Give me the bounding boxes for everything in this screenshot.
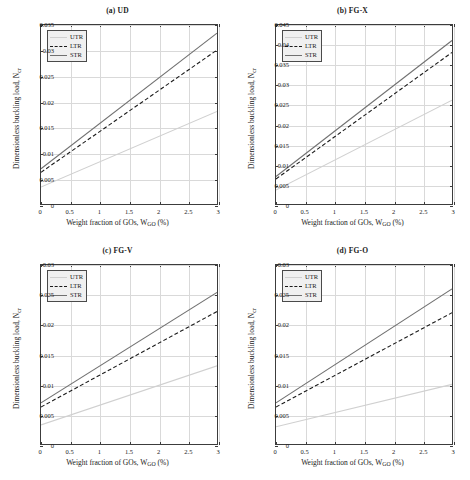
subplot-title-b: (b) FG-X bbox=[235, 6, 470, 15]
x-axis-tick-label: 3 bbox=[216, 208, 219, 215]
x-axis-tick-label: 2 bbox=[157, 208, 160, 215]
x-axis-tick-label: 1.5 bbox=[125, 208, 133, 215]
legend-item-utr[interactable]: UTR bbox=[50, 33, 83, 41]
legend-label: UTR bbox=[305, 33, 318, 41]
series-line-str bbox=[41, 292, 217, 402]
y-axis-tick bbox=[40, 446, 43, 447]
legend-label: LTR bbox=[70, 42, 82, 50]
y-axis-tick bbox=[275, 446, 278, 447]
x-axis-tick-label: 0.5 bbox=[301, 448, 309, 455]
y-axis-tick-label: 0.03 bbox=[43, 46, 54, 53]
y-axis-tick-label: 0.015 bbox=[274, 351, 289, 358]
x-axis-tick bbox=[454, 202, 455, 205]
y-axis-tick-label: 0 bbox=[286, 202, 289, 209]
x-axis-tick-label: 1.5 bbox=[360, 208, 368, 215]
subplot-panel-a: (a) UD UTRLTRSTR 00.511.522.5300.0050.01… bbox=[0, 0, 235, 240]
x-axis-tick-label: 3 bbox=[451, 208, 454, 215]
legend-item-ltr[interactable]: LTR bbox=[50, 282, 83, 290]
x-axis-tick-label: 1 bbox=[333, 448, 336, 455]
x-axis-tick-label: 0 bbox=[38, 448, 41, 455]
x-axis-tick-label: 2 bbox=[157, 448, 160, 455]
legend-item-utr[interactable]: UTR bbox=[50, 273, 83, 281]
x-axis-tick-label: 2.5 bbox=[184, 448, 192, 455]
legend-item-utr[interactable]: UTR bbox=[285, 273, 318, 281]
legend-line-swatch bbox=[285, 274, 302, 280]
series-line-utr bbox=[276, 384, 452, 426]
figure-canvas: (a) UD UTRLTRSTR 00.511.522.5300.0050.01… bbox=[0, 0, 470, 480]
x-axis-title: Weight fraction of GOs, WGO (%) bbox=[0, 218, 235, 227]
y-axis-tick-label: 0.015 bbox=[39, 351, 54, 358]
x-axis-tick-label: 2 bbox=[392, 448, 395, 455]
y-axis-title: Dimensionless buckling load, Ncr bbox=[12, 29, 21, 209]
series-line-str bbox=[276, 289, 452, 403]
legend-item-utr[interactable]: UTR bbox=[285, 33, 318, 41]
gridline-vertical bbox=[219, 25, 220, 204]
plot-area-a: UTRLTRSTR bbox=[40, 24, 218, 205]
subplot-title-c: (c) FG-V bbox=[0, 246, 235, 255]
x-axis-tick-label: 3 bbox=[216, 448, 219, 455]
y-axis-tick-label: 0.025 bbox=[39, 291, 54, 298]
y-axis-title: Dimensionless buckling load, Ncr bbox=[12, 269, 21, 449]
legend-label: STR bbox=[70, 51, 82, 59]
x-axis-tick-label: 1 bbox=[98, 208, 101, 215]
legend-line-swatch bbox=[285, 283, 302, 289]
x-axis-title: Weight fraction of GOs, WGO (%) bbox=[235, 458, 470, 467]
legend-item-str[interactable]: STR bbox=[50, 51, 83, 59]
legend-line-swatch bbox=[285, 52, 302, 58]
y-axis-tick bbox=[450, 446, 453, 447]
x-axis-tick-label: 1.5 bbox=[125, 448, 133, 455]
y-axis-tick bbox=[450, 206, 453, 207]
legend-label: LTR bbox=[70, 282, 82, 290]
series-line-ltr bbox=[276, 313, 452, 407]
y-axis-tick-label: 0.03 bbox=[278, 81, 289, 88]
legend-item-ltr[interactable]: LTR bbox=[285, 42, 318, 50]
x-axis-tick-label: 1 bbox=[333, 208, 336, 215]
plot-area-d: UTRLTRSTR bbox=[275, 264, 453, 445]
x-axis-title: Weight fraction of GOs, WGO (%) bbox=[0, 458, 235, 467]
y-axis-tick-label: 0 bbox=[51, 202, 54, 209]
x-axis-tick-label: 0.5 bbox=[301, 208, 309, 215]
y-axis-tick-label: 0.025 bbox=[274, 101, 289, 108]
y-axis-tick bbox=[40, 206, 43, 207]
y-axis-tick-label: 0.03 bbox=[278, 261, 289, 268]
y-axis-tick-label: 0.005 bbox=[274, 181, 289, 188]
subplot-title-a: (a) UD bbox=[0, 6, 235, 15]
legend-line-swatch bbox=[50, 274, 67, 280]
x-axis-title: Weight fraction of GOs, WGO (%) bbox=[235, 218, 470, 227]
y-axis-tick-label: 0.035 bbox=[274, 61, 289, 68]
y-axis-tick bbox=[215, 446, 218, 447]
y-axis-tick-label: 0.04 bbox=[278, 41, 289, 48]
series-line-utr bbox=[276, 100, 452, 190]
y-axis-tick-label: 0.01 bbox=[278, 381, 289, 388]
x-axis-tick-label: 0.5 bbox=[66, 448, 74, 455]
legend-item-ltr[interactable]: LTR bbox=[50, 42, 83, 50]
x-axis-tick bbox=[219, 24, 220, 27]
x-axis-tick bbox=[454, 24, 455, 27]
legend-item-str[interactable]: STR bbox=[50, 291, 83, 299]
legend-label: UTR bbox=[305, 273, 318, 281]
series-line-ltr bbox=[41, 50, 217, 172]
series-line-utr bbox=[41, 111, 217, 187]
x-axis-tick-label: 1.5 bbox=[360, 448, 368, 455]
x-axis-tick bbox=[219, 442, 220, 445]
x-axis-tick-label: 0 bbox=[38, 208, 41, 215]
x-axis-tick bbox=[454, 264, 455, 267]
y-axis-tick-label: 0.025 bbox=[274, 291, 289, 298]
legend-label: UTR bbox=[70, 273, 83, 281]
series-line-ltr bbox=[276, 52, 452, 178]
subplot-panel-b: (b) FG-X UTRLTRSTR 00.511.522.5300.0050.… bbox=[235, 0, 470, 240]
legend-label: STR bbox=[305, 291, 317, 299]
y-axis-tick bbox=[215, 206, 218, 207]
series-line-ltr bbox=[41, 312, 217, 407]
y-axis-tick-label: 0.02 bbox=[43, 321, 54, 328]
y-axis-tick-label: 0.02 bbox=[278, 121, 289, 128]
x-axis-tick bbox=[454, 442, 455, 445]
subplot-panel-d: (d) FG-O UTRLTRSTR 00.511.522.5300.0050.… bbox=[235, 240, 470, 480]
subplot-panel-c: (c) FG-V UTRLTRSTR 00.511.522.5300.0050.… bbox=[0, 240, 235, 480]
legend-item-ltr[interactable]: LTR bbox=[285, 282, 318, 290]
legend-label: STR bbox=[70, 291, 82, 299]
legend-item-str[interactable]: STR bbox=[285, 51, 318, 59]
y-axis-tick-label: 0.01 bbox=[43, 150, 54, 157]
y-axis-tick-label: 0.015 bbox=[39, 124, 54, 131]
legend-item-str[interactable]: STR bbox=[285, 291, 318, 299]
